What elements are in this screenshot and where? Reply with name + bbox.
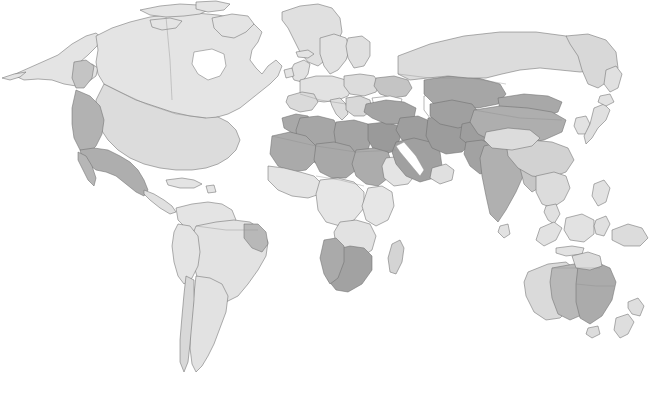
lesser-antilles	[206, 185, 216, 193]
world-map-figure	[0, 0, 652, 395]
world-map-svg	[0, 0, 652, 395]
country-niger-chad	[314, 142, 358, 178]
country-ireland	[284, 68, 294, 78]
island-borneo	[564, 214, 594, 242]
